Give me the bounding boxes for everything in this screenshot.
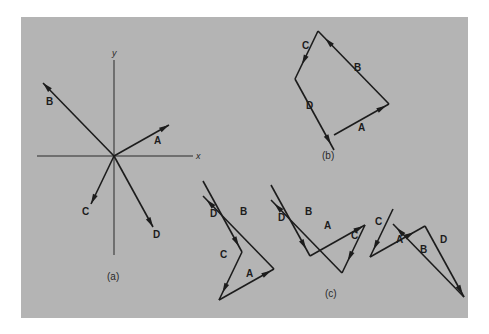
figure-panel — [21, 17, 468, 318]
panel-a-label-D: D — [153, 229, 160, 240]
panel-c2-label-D: D — [278, 212, 285, 223]
panel-c3-label-B: B — [420, 244, 427, 255]
panel-b-label-C: C — [302, 40, 309, 51]
panel-b-label-A: A — [358, 122, 365, 133]
panel-c2-label-B: B — [305, 206, 312, 217]
panel-a-label-B: B — [46, 96, 53, 107]
panel-a-label-C: C — [82, 206, 89, 217]
panel-c2-label-C: C — [351, 230, 358, 241]
panel-c3-label-A: A — [396, 234, 403, 245]
panel-b-label-B: B — [354, 62, 361, 73]
panel-a-caption: (a) — [107, 271, 119, 282]
panel-b-caption: (b) — [322, 150, 334, 161]
panel-c2-label-A: A — [324, 220, 331, 231]
panel-b-label-D: D — [306, 100, 313, 111]
panel-c1-label-A: A — [246, 268, 253, 279]
panel-a-label-A: A — [154, 135, 161, 146]
y-axis-label: y — [111, 48, 117, 58]
panel-c1-label-C: C — [220, 249, 227, 260]
panel-c-caption: (c) — [325, 288, 337, 299]
panel-c1-label-D: D — [210, 208, 217, 219]
panel-c3-label-C: C — [375, 216, 382, 227]
panel-c1-label-B: B — [240, 206, 247, 217]
x-axis-label: x — [195, 151, 201, 161]
panel-c3-label-D: D — [440, 234, 447, 245]
vector-addition-figure: x y A B C D (a) C B D A (b) D B C A D B … — [0, 0, 489, 334]
